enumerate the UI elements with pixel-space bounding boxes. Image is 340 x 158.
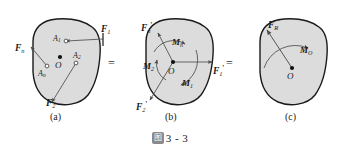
point-label-an: An [38,70,46,79]
point-marker-a2 [74,61,78,65]
panel-a-graphics [31,19,103,105]
panel-b-graphics [146,19,213,105]
rigid-body-shape-c [260,19,327,105]
equals-sign-bc: = [226,57,233,69]
force-label-fn: Fn [15,44,25,54]
point-marker-an [45,64,49,68]
point-label-a2: A2 [73,52,81,61]
moment-label-mn: Mn [172,38,183,48]
force-label-f1-prime: F1' [213,64,224,77]
origin-label-b: O [168,67,175,76]
point-marker-a1 [64,39,68,43]
force-label-fr-prime: FR' [268,18,280,31]
figure-3-3: F1 Fn F2 A1 A2 An O Fn' F1' F2' Mn M2 M1… [0,0,340,158]
moment-label-mo: MO [300,46,312,56]
point-marker-o-c [290,66,294,70]
point-label-a1: A1 [53,35,61,44]
origin-label-a: O [55,61,62,70]
panel-label-a: (a) [50,112,61,122]
equals-sign-ab: = [108,57,115,69]
force-label-f2-prime: F2' [136,100,147,113]
point-marker-o-b [171,60,175,64]
force-label-f2: F2 [46,99,56,109]
panel-label-c: (c) [285,112,296,122]
panel-label-b: (b) [165,112,177,122]
force-label-f1: F1 [101,25,111,35]
origin-label-c: O [287,72,294,81]
figure-caption: 图 3 - 3 [0,132,340,144]
force-label-fn-prime: Fn' [141,21,152,34]
caption-badge-icon: 图 [152,132,164,144]
point-marker-o-a [58,55,62,59]
panel-c-graphics [260,19,327,105]
moment-label-m2: M2 [143,62,154,72]
moment-label-m1: M1 [182,79,193,89]
caption-text: 3 - 3 [166,132,189,144]
